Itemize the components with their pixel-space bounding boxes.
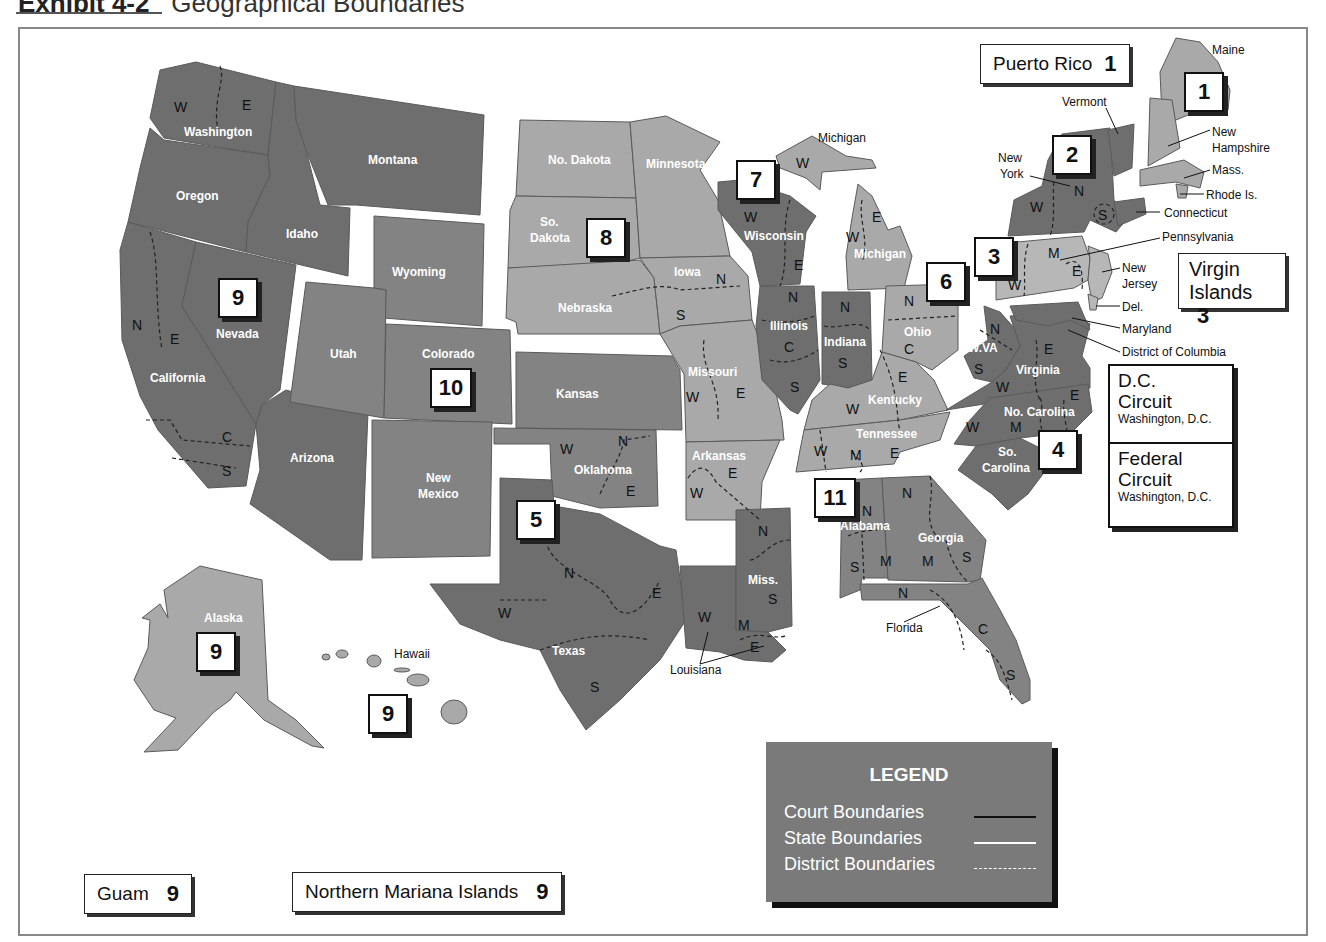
district-ok-n: N: [618, 433, 628, 449]
federal-circuit-location: Washington, D.C.: [1118, 490, 1224, 504]
label-florida: Florida: [886, 621, 923, 635]
district-mo-e: E: [736, 385, 745, 401]
district-wa-e: E: [242, 97, 251, 113]
district-in-s: S: [838, 355, 847, 371]
state-rhode-island[interactable]: [1176, 184, 1188, 198]
state-boundary-swatch: [974, 842, 1036, 844]
dc-circuit[interactable]: D.C. Circuit Washington, D.C.: [1110, 366, 1232, 442]
label-oregon: Oregon: [176, 189, 219, 203]
district-wi-w: W: [744, 209, 758, 225]
district-ms-n: N: [758, 523, 768, 539]
circuit-3-badge[interactable]: 3: [974, 237, 1014, 277]
district-ca-n: N: [132, 317, 142, 333]
district-wv-n: N: [990, 321, 1000, 337]
state-georgia[interactable]: [882, 476, 986, 582]
state-nebraska[interactable]: [506, 260, 660, 334]
district-ar-e: E: [728, 465, 737, 481]
label-arkansas: Arkansas: [692, 449, 746, 463]
district-va-e: E: [1044, 341, 1053, 357]
dc-circuit-location: Washington, D.C.: [1118, 412, 1224, 426]
label-minnesota: Minnesota: [646, 157, 706, 171]
circuit-10-badge[interactable]: 10: [430, 368, 472, 408]
label-so-dakota-2: Dakota: [530, 231, 570, 245]
label-pennsylvania: Pennsylvania: [1162, 230, 1234, 244]
label-michigan-upper: Michigan: [818, 131, 866, 145]
district-mi-upper-w: W: [796, 155, 810, 171]
district-ny-w: W: [1030, 199, 1044, 215]
district-tx-w: W: [498, 605, 512, 621]
label-montana: Montana: [368, 153, 418, 167]
legend-state-boundaries: State Boundaries: [784, 828, 922, 849]
court-boundary-swatch: [974, 816, 1036, 818]
district-la-w: W: [698, 609, 712, 625]
label-so-dakota-1: So.: [540, 215, 559, 229]
territory-guam[interactable]: Guam 9: [84, 874, 192, 914]
circuit-9-badge-alaska[interactable]: 9: [196, 632, 236, 672]
circuit-1-badge[interactable]: 1: [1184, 72, 1224, 112]
district-ca-c: C: [222, 429, 232, 445]
district-nc-w: W: [966, 419, 980, 435]
label-oklahoma: Oklahoma: [574, 463, 632, 477]
federal-circuit[interactable]: Federal Circuit Washington, D.C.: [1110, 442, 1232, 518]
label-nevada: Nevada: [216, 327, 259, 341]
label-vermont: Vermont: [1062, 95, 1107, 109]
district-boundary-swatch: [974, 868, 1036, 869]
circuit-11-badge[interactable]: 11: [814, 478, 856, 518]
circuit-5-badge[interactable]: 5: [516, 500, 556, 540]
circuit-2-badge[interactable]: 2: [1052, 135, 1092, 175]
label-new-york-1: New: [998, 151, 1022, 165]
circuit-7-badge[interactable]: 7: [736, 160, 776, 200]
district-al-n: N: [862, 503, 872, 519]
district-ca-e: E: [170, 331, 179, 347]
circuit-4-badge[interactable]: 4: [1038, 430, 1078, 470]
label-wva: W.VA: [968, 341, 998, 355]
district-ar-w: W: [690, 485, 704, 501]
label-louisiana: Louisiana: [670, 663, 722, 677]
federal-circuit-name-1: Federal: [1118, 448, 1224, 469]
district-wi-e: E: [794, 257, 803, 273]
district-va-w: W: [996, 379, 1010, 395]
label-kentucky: Kentucky: [868, 393, 922, 407]
circuit-8-badge[interactable]: 8: [586, 218, 626, 258]
state-kansas[interactable]: [516, 352, 682, 430]
label-colorado: Colorado: [422, 347, 475, 361]
territory-northern-mariana[interactable]: Northern Mariana Islands 9: [292, 872, 562, 912]
label-kansas: Kansas: [556, 387, 599, 401]
northern-mariana-name: Northern Mariana Islands: [305, 881, 518, 903]
label-so-carolina-1: So.: [998, 445, 1017, 459]
label-maine: Maine: [1212, 43, 1245, 57]
territory-virgin-islands[interactable]: Virgin Islands 3: [1178, 253, 1286, 309]
label-no-carolina: No. Carolina: [1004, 405, 1075, 419]
label-washington: Washington: [184, 125, 252, 139]
district-wa-w: W: [174, 99, 188, 115]
district-ny-s: S: [1098, 207, 1107, 223]
district-in-n: N: [840, 299, 850, 315]
district-al-s: S: [850, 559, 859, 575]
state-arizona[interactable]: [250, 390, 368, 560]
circuit-6-badge[interactable]: 6: [926, 262, 966, 302]
label-new-mexico-1: New: [426, 471, 451, 485]
label-indiana: Indiana: [824, 335, 866, 349]
circuit-9-badge-nevada[interactable]: 9: [218, 278, 258, 318]
circuit-9-badge-hawaii[interactable]: 9: [368, 694, 408, 734]
label-wisconsin: Wisconsin: [744, 229, 804, 243]
district-pa-e: E: [1072, 263, 1081, 279]
label-new-hampshire-1: New: [1212, 125, 1236, 139]
label-wyoming: Wyoming: [392, 265, 446, 279]
label-idaho: Idaho: [286, 227, 318, 241]
district-pa-w: W: [1008, 277, 1022, 293]
state-montana[interactable]: [294, 86, 484, 215]
district-fl-c: C: [978, 621, 988, 637]
state-minnesota[interactable]: [630, 116, 730, 258]
legend-title: LEGEND: [766, 764, 1052, 786]
state-new-jersey[interactable]: [1088, 246, 1112, 302]
territory-puerto-rico[interactable]: Puerto Rico 1: [980, 44, 1130, 84]
district-tn-e: E: [890, 445, 899, 461]
label-maryland: Maryland: [1122, 322, 1171, 336]
label-alaska: Alaska: [204, 611, 243, 625]
dc-federal-circuit-box: D.C. Circuit Washington, D.C. Federal Ci…: [1108, 364, 1234, 528]
district-pa-m: M: [1048, 245, 1060, 261]
puerto-rico-circuit: 1: [1104, 51, 1116, 77]
label-nebraska: Nebraska: [558, 301, 612, 315]
state-florida[interactable]: [860, 578, 1030, 704]
